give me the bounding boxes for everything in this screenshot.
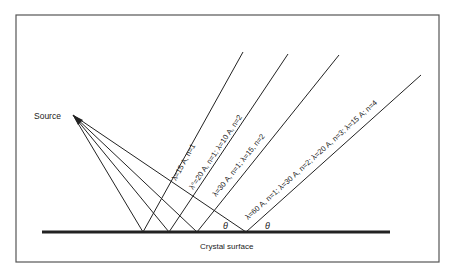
crystal-surface-label: Crystal surface: [200, 242, 254, 251]
diffraction-diagram: Source Crystal surface θ θ λ=15 A, n=1 λ…: [0, 0, 454, 274]
incident-ray-2: [73, 115, 169, 232]
ray-label-2: λ°=20 A, n=1; λ=10 A, n=2: [187, 113, 244, 191]
reflected-ray-1: [143, 52, 243, 232]
incident-ray-1: [73, 115, 143, 232]
theta-label-1: θ: [223, 221, 228, 231]
theta-label-2: θ: [265, 221, 270, 231]
source-label: Source: [34, 111, 61, 121]
incident-rays: [73, 115, 246, 232]
ray-label-4: λ=60 A, n=1; λ=30 A, n=2; λ=20 A, n=3; λ…: [243, 98, 379, 221]
reflected-ray-2: [169, 54, 288, 232]
reflected-rays: [143, 52, 421, 232]
incident-ray-4: [73, 115, 246, 232]
reflected-ray-4: [246, 75, 421, 232]
